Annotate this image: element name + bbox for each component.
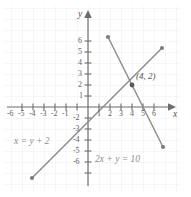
x-tick--2: -2 [51,110,57,118]
x-tick--5: -5 [18,110,24,118]
y-tick--2: -2 [73,114,79,122]
x-tick--4: -4 [29,110,35,118]
y-tick--6: -6 [73,158,79,166]
y-tick-4: 4 [78,59,82,67]
x-tick-6: 6 [152,110,156,118]
x-tick-5: 5 [141,110,145,118]
x-tick-2: 2 [108,110,112,118]
y-tick--4: -4 [73,136,79,144]
x-tick--3: -3 [40,110,46,118]
intersection-marker [130,83,135,88]
x-tick--1: -1 [62,110,68,118]
y-tick-3: 3 [78,70,82,78]
y-axis-label: y [78,10,82,20]
x-axis-label: x [173,110,177,120]
y-tick-6: 6 [78,37,82,45]
y-tick-2: 2 [78,81,82,89]
y-tick--3: -3 [73,125,79,133]
intersection-point-label: (4, 2) [136,72,156,81]
x-tick-1: 1 [97,110,101,118]
y-tick-5: 5 [78,48,82,56]
x-tick-3: 3 [119,110,123,118]
x-tick-4: 4 [130,110,134,118]
grid-background [4,6,180,192]
equation-label-line1: x = y + 2 [14,137,50,147]
graph-figure: -6 -5 -4 -3 -2 -1 1 2 3 4 5 6 6 5 4 3 2 … [0,0,191,197]
equation-label-line2: 2x + y = 10 [95,155,140,165]
x-tick--6: -6 [7,110,13,118]
y-tick-1: 1 [79,92,83,100]
coordinate-plane-svg [0,0,191,197]
y-tick--5: -5 [73,147,79,155]
